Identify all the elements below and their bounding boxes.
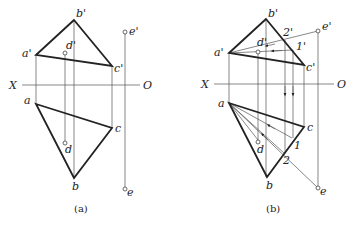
axis-o-label: O bbox=[143, 79, 152, 92]
label-b-prime: b' bbox=[268, 7, 278, 20]
point-e-prime bbox=[316, 29, 320, 33]
axis-x-label: X bbox=[200, 78, 210, 91]
label-d-prime: d' bbox=[257, 36, 267, 49]
label-d: d bbox=[257, 143, 264, 156]
point-d-prime bbox=[256, 50, 260, 54]
line-a-e bbox=[229, 103, 318, 188]
label-2: 2 bbox=[282, 154, 290, 167]
figure-b: X O b' a' c' d' e' bbox=[200, 7, 346, 214]
label-e-prime: e' bbox=[129, 25, 139, 38]
point-e-prime bbox=[123, 30, 127, 34]
label-e: e bbox=[127, 186, 134, 199]
arrow-top-2 bbox=[262, 134, 268, 140]
label-c: c bbox=[115, 122, 121, 135]
arrow-front-lower bbox=[272, 51, 282, 52]
label-e: e bbox=[320, 185, 327, 198]
label-a-prime: a' bbox=[22, 47, 32, 60]
arrow-top-1 bbox=[268, 125, 275, 129]
label-b: b bbox=[266, 179, 273, 192]
label-d: d bbox=[65, 143, 72, 156]
axis-x-label: X bbox=[8, 79, 18, 92]
label-1-prime: 1' bbox=[296, 40, 306, 53]
label-a: a bbox=[24, 94, 31, 107]
label-1: 1 bbox=[294, 139, 301, 152]
arrow-front-upper bbox=[266, 44, 275, 46]
label-e-prime: e' bbox=[322, 20, 332, 33]
label-a-prime: a' bbox=[214, 46, 224, 59]
caption-b: (b) bbox=[266, 203, 280, 214]
label-b-prime: b' bbox=[76, 7, 86, 20]
label-b: b bbox=[72, 180, 79, 193]
label-a: a bbox=[218, 97, 225, 110]
label-c-prime: c' bbox=[114, 62, 123, 75]
label-c: c bbox=[307, 121, 313, 134]
projection-diagram: X O b' a' c' d' e' a c b d e (a) X O bbox=[0, 0, 347, 225]
axis-o-label: O bbox=[337, 78, 346, 91]
label-c-prime: c' bbox=[306, 61, 315, 74]
label-d-prime: d' bbox=[66, 39, 76, 52]
label-2-prime: 2' bbox=[282, 26, 293, 39]
figure-a: X O b' a' c' d' e' a c b d e (a) bbox=[8, 7, 152, 214]
caption-a: (a) bbox=[74, 203, 88, 214]
